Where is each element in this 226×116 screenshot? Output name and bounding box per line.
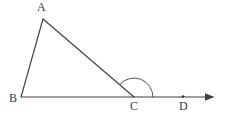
- vertex-label-d: D: [179, 100, 188, 112]
- segment-ac: [43, 19, 134, 97]
- vertex-label-b: B: [9, 92, 17, 104]
- vertex-label-a: A: [37, 1, 46, 13]
- vertex-label-c: C: [130, 100, 138, 112]
- geometry-figure: A B C D: [0, 0, 226, 116]
- arrowhead-icon: [205, 93, 215, 100]
- angle-arc-acd: [120, 78, 153, 97]
- point-marker-d: [182, 95, 185, 98]
- geometry-canvas: [0, 0, 226, 116]
- segment-ab: [21, 19, 43, 97]
